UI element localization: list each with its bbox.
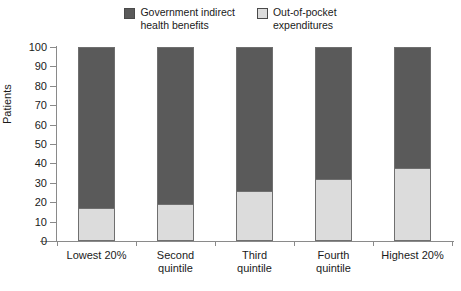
y-tick-label: 80	[3, 80, 47, 91]
y-tick-label: 30	[3, 177, 47, 188]
stacked-bar-chart: Government indirect health benefits Out-…	[0, 0, 461, 291]
x-tick-mark	[452, 241, 453, 246]
y-tick-label: 0	[3, 236, 47, 247]
y-tick-mark	[50, 105, 56, 106]
bar-segment-out-of-pocket-expenditures	[157, 204, 194, 241]
y-tick-label: 70	[3, 100, 47, 111]
x-tick-mark	[215, 241, 216, 246]
legend-swatch-light-icon	[257, 8, 268, 19]
bar-segment-government-indirect-health-benefits	[315, 47, 352, 179]
y-tick-mark	[50, 183, 56, 184]
bar-4	[315, 47, 352, 241]
y-tick-mark	[50, 47, 56, 48]
x-tick-mark	[373, 241, 374, 246]
bar-segment-out-of-pocket-expenditures	[394, 168, 431, 241]
bar-segment-government-indirect-health-benefits	[157, 47, 194, 204]
x-tick-mark	[136, 241, 137, 246]
chart-legend: Government indirect health benefits Out-…	[0, 6, 461, 31]
y-tick-label: 10	[3, 216, 47, 227]
y-tick-mark	[50, 163, 56, 164]
legend-swatch-dark-icon	[124, 8, 135, 19]
legend-label: Out-of-pocket expenditures	[273, 6, 337, 31]
y-tick-mark	[50, 222, 56, 223]
bar-segment-out-of-pocket-expenditures	[315, 179, 352, 241]
legend-entry-out-of-pocket-expenditures: Out-of-pocket expenditures	[257, 6, 337, 31]
y-tick-label: 20	[3, 197, 47, 208]
x-tick-mark	[57, 241, 58, 246]
y-tick-mark	[50, 125, 56, 126]
x-axis-line	[40, 241, 454, 242]
y-tick-mark	[50, 144, 56, 145]
y-tick-label: 90	[3, 61, 47, 72]
y-tick-label: 100	[3, 42, 47, 53]
bar-segment-out-of-pocket-expenditures	[78, 208, 115, 241]
y-tick-mark	[50, 86, 56, 87]
y-tick-mark	[50, 66, 56, 67]
y-tick-label: 60	[3, 119, 47, 130]
y-tick-label: 40	[3, 158, 47, 169]
x-axis-label-5: Highest 20%	[367, 249, 459, 262]
y-tick-mark	[50, 202, 56, 203]
bar-segment-government-indirect-health-benefits	[394, 47, 431, 168]
y-tick-label: 50	[3, 139, 47, 150]
bar-3	[236, 47, 273, 241]
bar-segment-out-of-pocket-expenditures	[236, 191, 273, 241]
bar-5	[394, 47, 431, 241]
plot-area	[57, 47, 452, 241]
y-tick-mark	[50, 241, 56, 242]
bar-1	[78, 47, 115, 241]
legend-label: Government indirect health benefits	[140, 6, 235, 31]
bar-segment-government-indirect-health-benefits	[236, 47, 273, 191]
bar-segment-government-indirect-health-benefits	[78, 47, 115, 208]
legend-entry-government-indirect-health-benefits: Government indirect health benefits	[124, 6, 235, 31]
x-tick-mark	[294, 241, 295, 246]
bar-2	[157, 47, 194, 241]
